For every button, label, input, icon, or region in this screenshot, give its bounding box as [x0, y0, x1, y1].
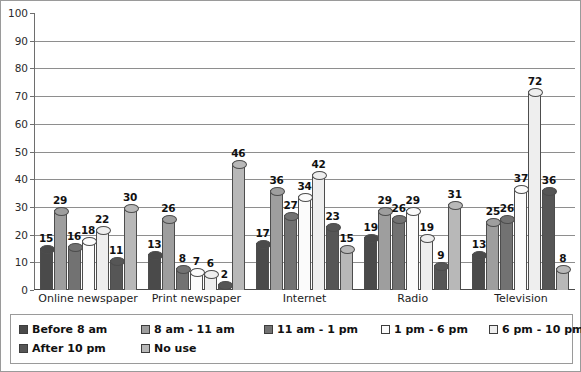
legend-swatch-icon	[489, 325, 498, 334]
bar: 17	[256, 243, 269, 290]
bar: 25	[486, 221, 499, 290]
bar-value-label: 42	[311, 158, 325, 170]
bar-value-label: 36	[269, 174, 283, 186]
bar-column: 8	[176, 13, 189, 290]
bar-value-label: 13	[472, 238, 486, 250]
bar-value-label: 19	[364, 221, 378, 233]
bar: 13	[148, 254, 161, 290]
chart-legend: Before 8 am8 am - 11 am11 am - 1 pm1 pm …	[10, 314, 573, 364]
bar-value-label: 27	[283, 199, 297, 211]
bar-column: 29	[54, 13, 67, 290]
bar-value-label: 26	[392, 202, 406, 214]
legend-row: After 10 pmNo use	[19, 339, 568, 358]
bar: 16	[68, 246, 81, 290]
bar: 2	[218, 284, 231, 290]
legend-label: Before 8 am	[32, 323, 107, 336]
bar-column: 22	[96, 13, 109, 290]
bar-value-label: 25	[486, 205, 500, 217]
bar: 26	[392, 218, 405, 290]
bar: 15	[340, 248, 353, 290]
legend-item[interactable]: 8 am - 11 am	[141, 323, 235, 336]
bar-value-label: 8	[179, 252, 186, 264]
bar-value-label: 37	[514, 172, 528, 184]
bar-column: 26	[162, 13, 175, 290]
y-tick-label: 80	[2, 62, 28, 74]
bar-column: 37	[514, 13, 527, 290]
legend-item[interactable]: No use	[141, 342, 196, 355]
bar-value-label: 16	[67, 230, 81, 242]
bar: 11	[110, 260, 123, 290]
bar-column: 23	[326, 13, 339, 290]
bar-column: 8	[556, 13, 569, 290]
bar: 36	[270, 190, 283, 290]
bar-column: 36	[270, 13, 283, 290]
y-tick-label: 0	[2, 284, 28, 296]
bar-value-label: 23	[325, 210, 339, 222]
bar: 13	[472, 254, 485, 290]
category-label: Radio	[397, 292, 428, 305]
bar: 46	[232, 163, 245, 290]
bar-value-label: 30	[123, 191, 137, 203]
bar-value-label: 36	[542, 174, 556, 186]
bar: 30	[124, 207, 137, 290]
category-label: Online newspaper	[38, 292, 137, 305]
y-tick-label: 100	[2, 7, 28, 19]
bar-value-label: 15	[39, 232, 53, 244]
legend-label: 1 pm - 6 pm	[394, 323, 468, 336]
bar-group: 15291618221130	[34, 13, 142, 290]
bar: 22	[96, 229, 109, 290]
legend-swatch-icon	[141, 344, 150, 353]
category-label: Television	[494, 292, 548, 305]
bar: 18	[82, 240, 95, 290]
legend-label: After 10 pm	[32, 342, 106, 355]
bar-group: 1325263772368	[467, 13, 575, 290]
y-tick-label: 50	[2, 146, 28, 158]
bar-value-label: 2	[221, 268, 228, 280]
bar-value-label: 8	[559, 252, 566, 264]
legend-item[interactable]: Before 8 am	[19, 323, 107, 336]
y-tick-label: 70	[2, 90, 28, 102]
category-label: Print newspaper	[152, 292, 241, 305]
bar-column: 2	[218, 13, 231, 290]
bar-column: 11	[110, 13, 123, 290]
legend-row: Before 8 am8 am - 11 am11 am - 1 pm1 pm …	[19, 320, 568, 339]
bar-value-label: 18	[81, 224, 95, 236]
bar-column: 30	[124, 13, 137, 290]
legend-item[interactable]: 1 pm - 6 pm	[381, 323, 468, 336]
y-tick-label: 60	[2, 118, 28, 130]
category-label: Internet	[283, 292, 327, 305]
bar-column: 29	[378, 13, 391, 290]
bar-column: 19	[420, 13, 433, 290]
bar: 42	[312, 174, 325, 290]
bar: 19	[364, 237, 377, 290]
legend-label: 6 pm - 10 pm	[502, 323, 581, 336]
bar: 6	[204, 273, 217, 290]
y-tick-label: 20	[2, 229, 28, 241]
bar-column: 34	[298, 13, 311, 290]
bar-value-label: 6	[207, 257, 214, 269]
bar: 15	[40, 248, 53, 290]
bar-column: 15	[340, 13, 353, 290]
legend-item[interactable]: 11 am - 1 pm	[264, 323, 358, 336]
y-tick-label: 30	[2, 201, 28, 213]
bar-value-label: 15	[339, 232, 353, 244]
bar-value-label: 34	[297, 180, 311, 192]
legend-item[interactable]: After 10 pm	[19, 342, 106, 355]
legend-item[interactable]: 6 pm - 10 pm	[489, 323, 581, 336]
bar: 29	[378, 210, 391, 290]
bar-chart: 1529161822113013268762461736273442231519…	[0, 0, 581, 372]
legend-swatch-icon	[19, 344, 28, 353]
bar: 31	[448, 204, 461, 290]
bar-value-label: 26	[500, 202, 514, 214]
bar-column: 27	[284, 13, 297, 290]
bar: 27	[284, 215, 297, 290]
bar-column: 29	[406, 13, 419, 290]
bar: 8	[176, 268, 189, 290]
bar-value-label: 9	[437, 249, 444, 261]
y-tick-label: 40	[2, 173, 28, 185]
legend-label: 8 am - 11 am	[154, 323, 235, 336]
bar-value-label: 29	[378, 194, 392, 206]
bar-value-label: 11	[109, 244, 123, 256]
legend-swatch-icon	[141, 325, 150, 334]
bar-column: 16	[68, 13, 81, 290]
